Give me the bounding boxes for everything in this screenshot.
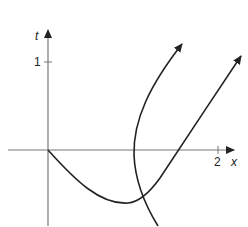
curve-through-origin	[48, 56, 241, 203]
t-axis-label: t	[35, 29, 39, 43]
diagram-canvas: t 1 2 x	[0, 0, 248, 227]
x-axis-label: x	[230, 155, 238, 169]
x-tick-label: 2	[214, 155, 221, 169]
t-tick-label: 1	[34, 55, 41, 69]
